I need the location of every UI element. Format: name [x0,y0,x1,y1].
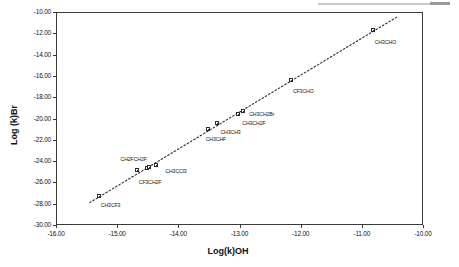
x-tick-label: -14.00 [161,230,195,237]
x-tick-label: -15.00 [100,230,134,237]
data-point-marker [147,165,151,169]
plot-area [56,12,423,225]
x-tick-mark [117,225,118,228]
x-tick-label: -10.00 [406,230,440,237]
data-point-marker [236,112,240,116]
x-tick-mark [56,225,57,228]
data-point-marker [289,78,293,82]
y-tick-mark [53,76,56,77]
y-tick-label: -16.00 [18,72,51,79]
data-point-marker [97,194,101,198]
data-point-label: CF3CH2F [139,179,162,185]
y-tick-label: -12.00 [18,29,51,36]
data-point-label: CH3CH2F [242,120,265,126]
x-tick-mark [362,225,363,228]
y-axis-title: Log (k)Br [9,105,19,145]
data-point-marker [371,28,375,32]
x-tick-mark [423,225,424,228]
scan-artifact-line-2 [430,2,450,5]
data-point-label: CH3CCl3 [165,168,186,174]
y-tick-label: -26.00 [18,178,51,185]
y-tick-mark [53,140,56,141]
x-tick-mark [240,225,241,228]
y-tick-mark [53,182,56,183]
y-tick-label: -24.00 [18,157,51,164]
y-tick-label: -14.00 [18,51,51,58]
y-tick-label: -10.00 [18,8,51,15]
data-point-marker [241,109,245,113]
x-tick-label: -12.00 [284,230,318,237]
data-point-label: CF3CHO [293,88,314,94]
y-tick-mark [53,55,56,56]
y-tick-label: -30.00 [18,221,51,228]
data-point-marker [154,163,158,167]
data-point-label: CH3CH3 [220,129,240,135]
data-point-label: CH3CHO [375,39,396,45]
y-tick-label: -20.00 [18,115,51,122]
data-point-label: CH3CF3 [101,202,121,208]
y-tick-mark [53,119,56,120]
y-tick-label: -18.00 [18,93,51,100]
data-point-marker [206,127,210,131]
y-tick-label: -28.00 [18,200,51,207]
y-tick-label: -22.00 [18,136,51,143]
y-tick-mark [53,97,56,98]
x-tick-mark [178,225,179,228]
data-point-label: CH2FCH2F [121,156,147,162]
data-point-label: CH3CH2Br [249,111,274,117]
y-tick-mark [53,161,56,162]
chart-figure: CH3CF3CF3CH2FCH2FCH2FCH3CCl3CH3CHFCH3CH3… [0,0,459,267]
x-tick-label: -16.00 [39,230,73,237]
data-point-marker [135,168,139,172]
x-tick-mark [301,225,302,228]
y-tick-mark [53,33,56,34]
data-point-label: CH3CHF [206,136,226,142]
data-point-marker [215,121,219,125]
x-axis-title: Log(k)OH [208,246,249,256]
x-tick-label: -13.00 [223,230,257,237]
y-tick-mark [53,204,56,205]
y-tick-mark [53,12,56,13]
x-tick-label: -11.00 [345,230,379,237]
